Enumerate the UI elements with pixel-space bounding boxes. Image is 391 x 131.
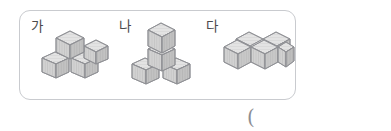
figure-label-da: 다 — [206, 20, 218, 34]
cube-figure-ga — [40, 22, 108, 84]
cube-figure-na — [130, 16, 198, 90]
worksheet-figure-panel: 가 — [0, 0, 391, 131]
cube-figure-da — [222, 28, 300, 80]
answer-parenthesis: ( — [247, 107, 255, 127]
